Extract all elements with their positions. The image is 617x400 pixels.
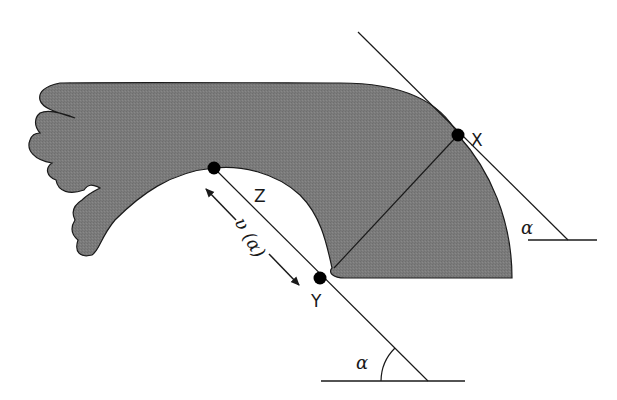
label-x: X <box>471 130 483 150</box>
label-y: Y <box>310 291 322 311</box>
label-angle-lower: α <box>356 352 368 373</box>
point-y <box>314 272 327 285</box>
label-angle-upper: α <box>521 217 533 238</box>
point-x <box>452 129 465 142</box>
geometry-diagram: X Z Y υ (α) α α <box>0 0 617 400</box>
distance-arrow-up <box>206 189 236 220</box>
angle-arc-lower <box>381 348 395 381</box>
label-distance: υ (α) <box>231 214 271 262</box>
label-z: Z <box>254 186 266 206</box>
distance-arrow-down <box>269 254 299 285</box>
point-z <box>208 162 221 175</box>
shaded-region <box>29 83 512 278</box>
